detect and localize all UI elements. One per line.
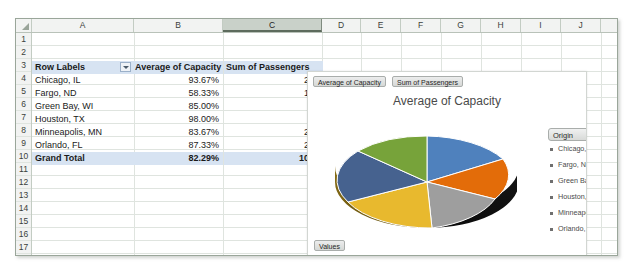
row-header-8[interactable]: 8 [16,124,31,137]
grid-line-horizontal [32,58,617,59]
row-header-1[interactable]: 1 [16,33,31,46]
row-header-7[interactable]: 7 [16,111,31,124]
pivot-row-capacity: 58.33% [134,87,223,100]
column-header-h[interactable]: H [481,19,521,32]
row-header-6[interactable]: 6 [16,98,31,111]
legend-bullet-icon [550,228,553,231]
legend-item-label: Fargo, ND [558,160,587,169]
row-header-13[interactable]: 13 [16,189,31,202]
legend-header-label: Origin [553,131,573,140]
row-header-column: 1234567891011121314151617 [16,33,32,256]
row-header-4[interactable]: 4 [16,72,31,85]
column-header-row: ABCDEFGHIJK [16,19,617,33]
select-all-triangle-icon [22,23,29,30]
row-header-3[interactable]: 3 [16,59,31,72]
row-header-14[interactable]: 14 [16,202,31,215]
legend-bullet-icon [550,148,553,151]
column-header-f[interactable]: F [401,19,441,32]
column-header-d[interactable]: D [322,19,361,32]
pivot-row-capacity: 93.67% [134,74,223,87]
pivot-row-label: Fargo, ND [32,87,134,100]
row-header-5[interactable]: 5 [16,85,31,98]
legend-bullet-icon [550,196,553,199]
row-header-11[interactable]: 11 [16,163,31,176]
legend-bullet-icon [550,212,553,215]
pivot-header-avg-capacity: Average of Capacity [134,61,223,74]
pie-chart-3d[interactable] [332,120,517,238]
chart-legend: Origin Chicago, IL Fargo, ND Green Bay, … [548,128,587,237]
excel-worksheet-screenshot: ABCDEFGHIJK 1234567891011121314151617 Ro… [0,0,634,272]
pivot-grand-total-capacity: 82.29% [134,152,223,165]
row-header-9[interactable]: 9 [16,137,31,150]
pivot-row-capacity: 87.33% [134,139,223,152]
pivot-row-label: Houston, TX [32,113,134,126]
row-header-2[interactable]: 2 [16,46,31,59]
pivot-header-row-labels: Row Labels [32,61,134,74]
column-header-i[interactable]: I [521,19,561,32]
field-button-sum-passengers[interactable]: Sum of Passengers [392,76,463,87]
grid-line-vertical [601,33,602,255]
column-header-e[interactable]: E [361,19,401,32]
field-button-values[interactable]: Values [314,240,345,251]
filter-dropdown-icon [123,66,129,69]
pivot-row-label: Chicago, IL [32,74,134,87]
column-header-k[interactable]: K [601,19,618,32]
legend-item-minneapolis[interactable]: Minneapolis, MN [548,205,587,221]
pivot-row-capacity: 85.00% [134,100,223,113]
column-header-b[interactable]: B [134,19,223,32]
grid-line-horizontal [32,45,617,46]
legend-header-origin[interactable]: Origin [548,128,587,141]
worksheet-frame: ABCDEFGHIJK 1234567891011121314151617 Ro… [15,18,618,256]
pivot-row-capacity: 83.67% [134,126,223,139]
legend-item-houston[interactable]: Houston, TX [548,189,587,205]
chart-title: Average of Capacity [308,94,586,108]
legend-item-label: Orlando, FL [558,224,587,233]
legend-item-label: Green Bay, WI [558,176,587,185]
legend-item-label: Chicago, IL [558,144,587,153]
legend-item-label: Houston, TX [558,192,587,201]
legend-item-fargo[interactable]: Fargo, ND [548,157,587,173]
row-header-15[interactable]: 15 [16,215,31,228]
legend-bullet-icon [550,164,553,167]
row-labels-filter-button[interactable] [120,62,131,72]
column-header-j[interactable]: J [561,19,601,32]
pivot-row-label: Green Bay, WI [32,100,134,113]
column-header-c[interactable]: C [223,19,322,32]
column-header-g[interactable]: G [441,19,481,32]
pivot-row-capacity: 98.00% [134,113,223,126]
legend-item-chicago[interactable]: Chicago, IL [548,141,587,157]
row-header-10[interactable]: 10 [16,150,31,163]
legend-item-orlando[interactable]: Orlando, FL [548,221,587,237]
legend-item-green-bay[interactable]: Green Bay, WI [548,173,587,189]
row-header-16[interactable]: 16 [16,228,31,241]
pivot-chart-object[interactable]: Average of Capacity Sum of Passengers Av… [307,71,587,256]
column-header-a[interactable]: A [32,19,134,32]
select-all-button[interactable] [16,19,32,32]
pivot-row-label: Orlando, FL [32,139,134,152]
row-header-12[interactable]: 12 [16,176,31,189]
pivot-row-label: Minneapolis, MN [32,126,134,139]
pivot-grand-total-label: Grand Total [32,152,134,165]
legend-item-label: Minneapolis, MN [558,208,587,217]
legend-bullet-icon [550,180,553,183]
row-header-17[interactable]: 17 [16,241,31,254]
field-button-avg-capacity[interactable]: Average of Capacity [313,76,386,87]
